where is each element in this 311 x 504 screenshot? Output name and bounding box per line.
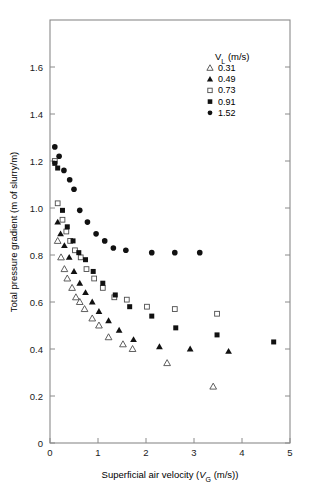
data-point: [127, 304, 132, 309]
legend: VL (m/s) 0.310.490.730.911.52: [207, 51, 250, 118]
data-point: [92, 276, 97, 281]
y-axis-tick-labels: 00.20.40.60.81.01.21.41.6: [30, 62, 43, 449]
y-tick-label: 0.6: [30, 297, 43, 308]
y-tick-label: 0.2: [30, 391, 43, 402]
data-point: [149, 314, 154, 319]
legend-marker-0-31: [207, 65, 213, 71]
legend-label-0-31: 0.31: [218, 63, 236, 73]
data-point: [215, 332, 220, 337]
y-axis-title: Total pressure gradient (m of slurry/m): [8, 152, 19, 313]
x-tick-label: 5: [287, 447, 292, 458]
data-point: [173, 325, 178, 330]
series-0-91: [52, 161, 276, 345]
data-point: [116, 327, 123, 333]
data-point: [100, 281, 105, 286]
x-tick-label: 3: [191, 447, 196, 458]
legend-label-0-49: 0.49: [218, 74, 236, 84]
data-series-layer: [52, 144, 276, 389]
data-point: [271, 339, 276, 344]
y-tick-label: 1.2: [30, 156, 43, 167]
x-axis-title: Superficial air velocity (VG (m/s)): [102, 469, 239, 483]
data-point: [210, 383, 217, 389]
data-point: [113, 292, 118, 297]
data-point: [65, 224, 70, 229]
data-point: [66, 254, 73, 260]
series-0-49: [54, 219, 232, 354]
data-point: [82, 289, 89, 295]
data-point: [56, 153, 62, 159]
data-point: [61, 266, 68, 272]
x-tick-label: 1: [95, 447, 100, 458]
data-point: [61, 242, 68, 248]
data-point: [52, 161, 57, 166]
data-point: [89, 315, 96, 321]
data-point: [71, 238, 76, 243]
data-point: [149, 250, 155, 256]
legend-label-0-73: 0.73: [218, 85, 236, 95]
legend-label-1-52: 1.52: [218, 108, 236, 118]
legend-marker-0-49: [207, 76, 213, 82]
data-point: [67, 177, 73, 183]
scatter-plot-canvas: 012345 00.20.40.60.81.01.21.41.6 Superfi…: [0, 0, 311, 504]
x-axis-tick-labels: 012345: [47, 447, 292, 458]
x-tick-label: 4: [239, 447, 244, 458]
data-point: [145, 304, 150, 309]
data-point: [187, 346, 194, 352]
data-point: [76, 280, 83, 286]
y-tick-label: 0.8: [30, 250, 43, 261]
data-point: [124, 297, 129, 302]
data-point: [64, 275, 71, 281]
data-point: [54, 237, 61, 243]
data-point: [91, 269, 96, 274]
series-0-73: [52, 159, 219, 317]
data-point: [77, 208, 83, 214]
data-point: [76, 250, 81, 255]
data-point: [105, 317, 112, 323]
data-point: [197, 250, 203, 256]
data-point: [64, 229, 69, 234]
data-point: [215, 311, 220, 316]
x-axis-ticks: [50, 438, 290, 443]
data-point: [60, 217, 65, 222]
data-point: [172, 307, 177, 312]
data-point: [81, 306, 88, 312]
data-point: [73, 294, 80, 300]
data-point: [52, 144, 58, 150]
x-tick-label: 2: [143, 447, 148, 458]
y-axis-ticks: [50, 67, 290, 443]
data-point: [61, 168, 67, 174]
data-point: [83, 257, 88, 262]
data-point: [120, 341, 127, 347]
data-point: [93, 231, 99, 237]
legend-marker-1-52: [208, 110, 213, 115]
plot-frame: [50, 20, 290, 443]
y-tick-label: 1.6: [30, 62, 43, 73]
data-point: [111, 245, 117, 251]
y-tick-label: 1.4: [30, 109, 43, 120]
data-point: [60, 208, 65, 213]
data-point: [69, 284, 76, 290]
data-point: [156, 343, 163, 349]
data-point: [100, 286, 105, 291]
legend-marker-0-73: [208, 88, 212, 92]
legend-entries: 0.310.490.730.911.52: [207, 63, 236, 118]
data-point: [71, 186, 77, 192]
y-tick-label: 0: [38, 438, 43, 449]
legend-marker-0-91: [208, 99, 213, 104]
y-tick-label: 1.0: [30, 203, 43, 214]
data-point: [78, 255, 83, 260]
data-point: [84, 267, 89, 272]
data-point: [96, 308, 103, 314]
data-point: [105, 334, 112, 340]
data-point: [172, 250, 178, 256]
chart-figure: 012345 00.20.40.60.81.01.21.41.6 Superfi…: [0, 0, 311, 504]
data-point: [55, 166, 60, 171]
data-point: [102, 238, 108, 244]
data-point: [130, 336, 137, 342]
data-point: [123, 247, 129, 253]
data-point: [89, 299, 96, 305]
data-point: [57, 230, 64, 236]
legend-label-0-91: 0.91: [218, 97, 236, 107]
data-point: [164, 360, 171, 366]
data-point: [55, 201, 60, 206]
